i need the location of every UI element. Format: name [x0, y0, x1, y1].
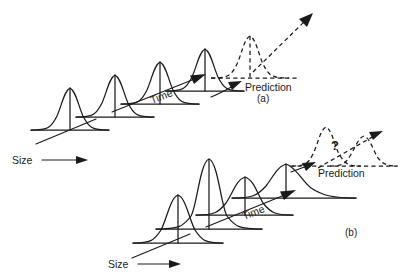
- panel-b-label: (b): [345, 227, 357, 238]
- prediction-label-a: Prediction: [245, 81, 292, 93]
- uncertainty-question-mark: ?: [331, 138, 339, 153]
- panel-a-label: (a): [257, 93, 269, 104]
- distribution-evolution-diagram: Time Size: [0, 0, 401, 279]
- size-label-a: Size: [12, 154, 33, 166]
- figure-container: Time Size: [0, 0, 401, 279]
- prediction-label-b: Prediction: [318, 167, 365, 179]
- size-label-b: Size: [108, 258, 129, 270]
